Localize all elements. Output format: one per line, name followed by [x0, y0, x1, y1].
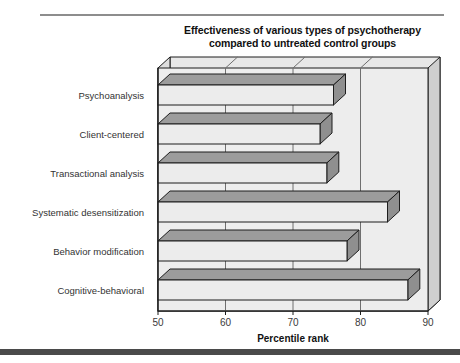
x-axis-title: Percentile rank [158, 333, 428, 344]
right-wall [428, 57, 440, 311]
bar-client-centered [158, 113, 332, 144]
bar-behavior-modification [158, 230, 359, 261]
x-tick-70: 70 [287, 317, 298, 328]
x-tick-90: 90 [422, 317, 433, 328]
x-tick-80: 80 [355, 317, 366, 328]
y-label-cognitive-behavioral: Cognitive-behavioral [57, 285, 144, 296]
y-label-transactional-analysis: Transactional analysis [50, 168, 144, 179]
y-label-behavior-modification: Behavior modification [53, 246, 144, 257]
bar-cognitive-behavioral [158, 269, 420, 300]
bar-psychoanalysis [158, 74, 346, 105]
y-label-client-centered: Client-centered [80, 129, 144, 140]
y-label-systematic-desensitization: Systematic desensitization [32, 207, 144, 218]
bottom-divider-rule [0, 349, 460, 355]
chart-figure: Effectiveness of various types of psycho… [0, 0, 460, 363]
y-axis-labels: Psychoanalysis Client-centered Transacti… [0, 0, 150, 363]
bar-transactional-analysis [158, 152, 339, 183]
bar-systematic-desensitization [158, 191, 400, 222]
x-tick-60: 60 [220, 317, 231, 328]
y-label-psychoanalysis: Psychoanalysis [79, 90, 144, 101]
x-tick-50: 50 [152, 317, 163, 328]
